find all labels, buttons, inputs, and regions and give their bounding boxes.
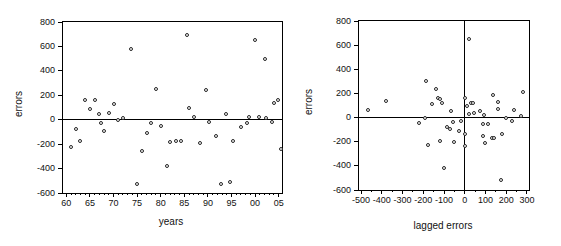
x-axis-minor-tick (141, 193, 142, 195)
x-axis-minor-tick (217, 193, 218, 195)
data-point (442, 166, 446, 170)
x-axis-minor-tick (155, 193, 156, 195)
x-axis-minor-tick (99, 193, 100, 195)
data-point (69, 145, 73, 149)
x-axis-minor-tick (226, 193, 227, 195)
data-point (496, 100, 500, 104)
data-point (245, 121, 249, 125)
x-axis-minor-tick (170, 193, 171, 195)
x-axis-minor-tick (240, 193, 241, 195)
data-point (239, 125, 243, 129)
x-axis-tick (137, 193, 138, 197)
data-point (99, 121, 103, 125)
data-point (512, 108, 516, 112)
x-axis-minor-tick (189, 193, 190, 195)
data-point (214, 134, 218, 138)
data-point (121, 116, 125, 120)
y-axis-tick (58, 46, 62, 47)
y-axis-tick (58, 95, 62, 96)
y-tick-label: 400 (25, 66, 55, 75)
x-tick-label: 95 (226, 199, 236, 208)
data-point (384, 99, 388, 103)
x-tick-label: -400 (373, 196, 391, 205)
data-point (451, 120, 455, 124)
data-point (449, 109, 453, 113)
data-point (129, 47, 133, 51)
x-axis-minor-tick (71, 193, 72, 195)
data-point (481, 122, 485, 126)
x-axis-minor-tick (108, 193, 109, 195)
y-tick-label: -600 (321, 186, 351, 195)
x-tick-label: 0 (462, 196, 467, 205)
data-point (154, 87, 158, 91)
data-point (168, 140, 172, 144)
data-point (231, 139, 235, 143)
x-axis-tick (66, 193, 67, 197)
x-axis-tick (255, 193, 256, 197)
data-point (270, 120, 274, 124)
x-axis-minor-tick (412, 190, 413, 192)
x-axis-minor-tick (259, 193, 260, 195)
data-point (174, 139, 178, 143)
data-point (198, 141, 202, 145)
x-tick-label: 85 (179, 199, 189, 208)
y-axis-tick (354, 45, 358, 46)
right-plot-y-axis-label: errors (304, 89, 314, 115)
y-axis-tick (354, 69, 358, 70)
data-point (179, 139, 183, 143)
x-axis-tick (89, 193, 90, 197)
y-axis-tick (58, 70, 62, 71)
x-axis-minor-tick (85, 193, 86, 195)
x-axis-minor-tick (122, 193, 123, 195)
data-point (463, 96, 467, 100)
data-point (504, 116, 508, 120)
x-axis-tick (444, 190, 445, 194)
data-point (247, 115, 251, 119)
data-point (116, 118, 120, 122)
y-axis-tick (58, 22, 62, 23)
y-tick-label: 0 (25, 115, 55, 124)
data-point (472, 111, 476, 115)
x-axis-minor-tick (250, 193, 251, 195)
x-axis-minor-tick (392, 190, 393, 192)
x-tick-label: -200 (414, 196, 432, 205)
x-tick-label: 100 (478, 196, 493, 205)
data-point (366, 108, 370, 112)
x-axis-tick (184, 193, 185, 197)
x-axis-minor-tick (433, 190, 434, 192)
data-point (149, 121, 153, 125)
x-tick-label: 70 (108, 199, 118, 208)
x-axis-minor-tick (132, 193, 133, 195)
x-axis-minor-tick (193, 193, 194, 195)
y-axis-tick (354, 21, 358, 22)
data-point (219, 182, 223, 186)
x-tick-label: 90 (203, 199, 213, 208)
x-axis-minor-tick (273, 193, 274, 195)
x-axis-tick (207, 193, 208, 197)
data-point (424, 79, 428, 83)
x-tick-label: 05 (274, 199, 284, 208)
x-axis-tick (361, 190, 362, 194)
scatter-plot-errors-vs-lagged-errors: 8006004002000-200-400-600-500-400-300-20… (358, 20, 530, 191)
data-point (253, 38, 257, 42)
x-axis-minor-tick (118, 193, 119, 195)
left-plot-x-axis-label: years (159, 217, 183, 227)
y-tick-label: 400 (321, 65, 351, 74)
data-point (272, 101, 276, 105)
data-point (440, 101, 444, 105)
data-point (426, 143, 430, 147)
x-axis-minor-tick (454, 190, 455, 192)
y-tick-label: 800 (25, 18, 55, 27)
y-axis-tick (58, 168, 62, 169)
x-axis-tick (113, 193, 114, 197)
data-point (465, 104, 469, 108)
x-axis-minor-tick (269, 193, 270, 195)
x-axis-tick (526, 190, 527, 194)
x-axis-minor-tick (475, 190, 476, 192)
data-point (486, 122, 490, 126)
data-point (434, 87, 438, 91)
data-point (207, 120, 211, 124)
y-axis-tick (58, 193, 62, 194)
x-axis-minor-tick (94, 193, 95, 195)
x-axis-minor-tick (516, 190, 517, 192)
